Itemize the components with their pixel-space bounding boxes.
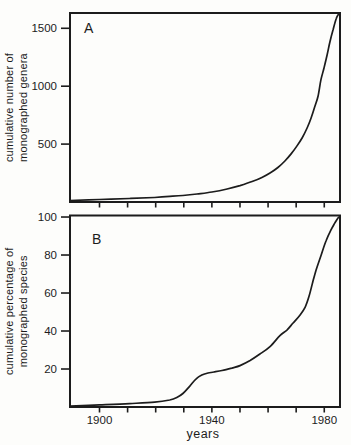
plot-box-a bbox=[70, 13, 340, 202]
y-tick-label-a: 1500 bbox=[31, 22, 57, 34]
panel-label-b: B bbox=[92, 231, 101, 247]
panel-label-a: A bbox=[84, 20, 94, 36]
y-tick-label-a: 500 bbox=[38, 138, 57, 150]
x-tick-label-b: 1900 bbox=[87, 414, 113, 426]
chart-svg: 50010001500cumulative number ofmonograph… bbox=[0, 0, 351, 445]
y-axis-title-a: cumulative number of bbox=[3, 52, 15, 162]
curve-b bbox=[70, 216, 340, 406]
y-axis-title-b: monographed species bbox=[17, 255, 29, 367]
y-tick-label-b: 80 bbox=[44, 249, 57, 261]
y-tick-label-b: 40 bbox=[44, 325, 57, 337]
y-tick-label-b: 100 bbox=[38, 211, 57, 223]
curve-a bbox=[70, 13, 340, 201]
y-tick-label-b: 20 bbox=[44, 363, 57, 375]
plot-box-b bbox=[70, 216, 340, 408]
y-tick-label-a: 1000 bbox=[31, 80, 57, 92]
y-axis-title-b: cumulative percentage of bbox=[3, 247, 15, 375]
y-axis-title-a: monographed genera bbox=[17, 52, 29, 161]
x-tick-label-b: 1980 bbox=[311, 414, 337, 426]
y-tick-label-b: 60 bbox=[44, 287, 57, 299]
x-axis-title-b: years bbox=[186, 427, 219, 441]
figure-cumulative-monographs: 50010001500cumulative number ofmonograph… bbox=[0, 0, 351, 445]
x-tick-label-b: 1940 bbox=[199, 414, 225, 426]
